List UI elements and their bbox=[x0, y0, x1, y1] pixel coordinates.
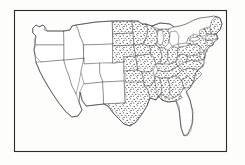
state-north-dakota bbox=[113, 21, 133, 34]
state-oklahoma bbox=[124, 70, 144, 83]
state-new-mexico bbox=[103, 81, 125, 104]
state-south-dakota bbox=[113, 33, 134, 46]
lake-huron-erie bbox=[169, 31, 179, 46]
state-kansas bbox=[124, 56, 138, 71]
state-wyoming bbox=[84, 44, 113, 64]
state-oregon bbox=[34, 45, 64, 62]
coast-annotation-label: L bbox=[206, 49, 208, 53]
map-figure: Photocopied line map of the contiguous U… bbox=[0, 0, 245, 165]
state-colorado bbox=[100, 62, 124, 82]
us-map-svg: L bbox=[0, 0, 245, 165]
